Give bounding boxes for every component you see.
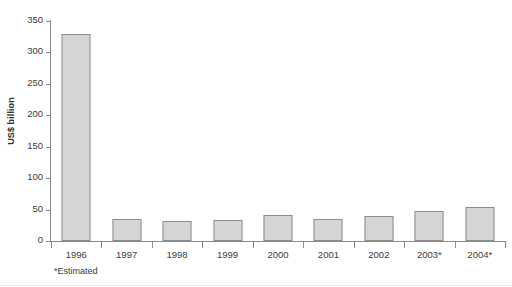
y-axis-tick-label: 150 (27, 140, 43, 151)
bar-slot (455, 21, 505, 241)
bar-2001[interactable] (314, 219, 343, 241)
bar-slot (202, 21, 252, 241)
x-axis-tick-mark (303, 241, 304, 248)
x-axis-label-1996: 1996 (51, 249, 101, 260)
x-axis-label-2001: 2001 (303, 249, 353, 260)
y-axis-tick-label: 200 (27, 108, 43, 119)
x-axis-tick-mark (354, 241, 355, 248)
y-axis-tick: 50 (0, 210, 51, 211)
bar-1999[interactable] (213, 220, 242, 241)
x-axis-tick-mark (505, 241, 506, 248)
chart-footnote: *Estimated (54, 266, 98, 276)
y-axis-tick: 250 (0, 84, 51, 85)
bar-1998[interactable] (163, 221, 192, 241)
bar-series (51, 21, 505, 241)
x-axis-label-2000: 2000 (253, 249, 303, 260)
bar-1997[interactable] (112, 219, 141, 241)
y-axis-tick-label: 0 (38, 234, 43, 245)
x-axis-labels: 19961997199819992000200120022003*2004* (51, 249, 505, 263)
y-axis-tick: 150 (0, 147, 51, 148)
y-axis-tick-label: 50 (32, 203, 43, 214)
x-axis-label-2004: 2004* (455, 249, 505, 260)
y-axis-tick-label: 250 (27, 77, 43, 88)
bar-slot (404, 21, 454, 241)
bar-slot (152, 21, 202, 241)
x-axis-tick-mark (253, 241, 254, 248)
x-axis-tick-mark (101, 241, 102, 248)
x-axis-tick-mark (152, 241, 153, 248)
x-axis-label-2003: 2003* (404, 249, 454, 260)
x-axis-label-1998: 1998 (152, 249, 202, 260)
y-axis-tick: 300 (0, 52, 51, 53)
bar-slot (51, 21, 101, 241)
y-axis-title-label: US$ billion (6, 97, 16, 145)
y-axis-tick: 350 (0, 21, 51, 22)
y-axis-title: US$ billion (0, 0, 22, 241)
y-axis-tick: 100 (0, 178, 51, 179)
x-axis-tick-mark (202, 241, 203, 248)
x-axis-tick-mark (404, 241, 405, 248)
bar-2002[interactable] (364, 216, 393, 241)
bar-chart: US$ billion 050100150200250300350 199619… (0, 0, 512, 287)
bar-slot (354, 21, 404, 241)
bar-2000[interactable] (263, 215, 292, 241)
x-axis-tick-mark (455, 241, 456, 248)
bar-slot (253, 21, 303, 241)
bar-slot (303, 21, 353, 241)
y-axis-tick-label: 300 (27, 45, 43, 56)
x-axis-label-1997: 1997 (101, 249, 151, 260)
x-axis-tick-mark (51, 241, 52, 248)
x-axis-ticks (51, 241, 505, 249)
bar-slot (101, 21, 151, 241)
bar-2004[interactable] (465, 207, 494, 241)
x-axis-label-1999: 1999 (202, 249, 252, 260)
y-axis-tick: 200 (0, 115, 51, 116)
y-axis-tick-label: 100 (27, 171, 43, 182)
bar-2003[interactable] (415, 211, 444, 241)
x-axis-label-2002: 2002 (354, 249, 404, 260)
bottom-divider (0, 285, 512, 286)
bar-1996[interactable] (62, 34, 91, 241)
y-axis-tick-label: 350 (27, 14, 43, 25)
y-axis-tick: 0 (0, 241, 51, 242)
